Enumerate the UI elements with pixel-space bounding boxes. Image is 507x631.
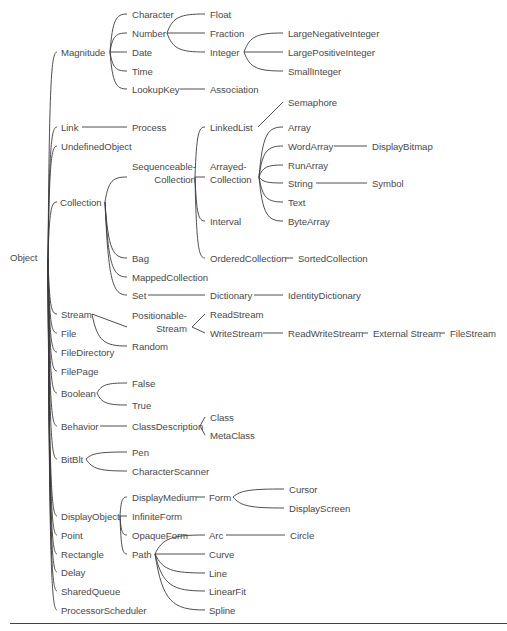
connector	[192, 314, 205, 327]
class-node-cursor: Cursor	[289, 484, 318, 495]
class-label: LinkedList	[210, 122, 253, 133]
class-node-opaque-form: OpaqueForm	[132, 530, 188, 541]
class-label: Association	[210, 84, 259, 95]
class-label: Collection	[60, 197, 102, 208]
class-label: Semaphore	[288, 97, 337, 108]
class-node-boolean: Boolean	[61, 388, 96, 399]
class-label: LargeNegativeInteger	[288, 28, 379, 39]
class-label: ReadStream	[210, 309, 263, 320]
class-label: Random	[132, 341, 168, 352]
class-label: SortedCollection	[298, 253, 368, 264]
class-label: Cursor	[289, 484, 318, 495]
class-node-behavior: Behavior	[61, 421, 98, 432]
connector	[259, 177, 283, 183]
class-node-bag: Bag	[132, 253, 149, 264]
class-label: DisplayBitmap	[372, 141, 433, 152]
class-node-external-stream: External Stream	[373, 328, 441, 339]
class-node-delay: Delay	[61, 567, 85, 578]
connector	[92, 314, 127, 346]
class-node-random: Random	[132, 341, 168, 352]
class-label: Curve	[209, 549, 234, 560]
class-label: DisplayMedium	[132, 492, 197, 503]
class-node-character-scanner: CharacterScanner	[132, 466, 209, 477]
class-node-word-array: WordArray	[288, 141, 333, 152]
class-label: Sequenceable-	[132, 161, 196, 172]
class-node-time: Time	[132, 66, 153, 77]
class-node-true: True	[132, 400, 151, 411]
class-label: FilePage	[61, 366, 98, 377]
class-node-write-stream: WriteStream	[210, 328, 263, 339]
class-label: Fraction	[210, 28, 244, 39]
class-node-display-object: DisplayObject	[61, 511, 120, 522]
class-label: Positionable-	[132, 310, 187, 321]
class-node-class-description: ClassDescription	[132, 421, 203, 432]
class-node-string: String	[288, 178, 313, 189]
class-node-run-array: RunArray	[288, 160, 328, 171]
class-label: DisplayScreen	[289, 503, 350, 514]
class-node-process: Process	[132, 122, 166, 133]
class-hierarchy-diagram: ObjectMagnitudeCharacterNumberDateTimeLo…	[0, 0, 507, 631]
class-label: FileDirectory	[61, 347, 114, 358]
class-label: RunArray	[288, 160, 328, 171]
class-node-bit-blt: BitBlt	[61, 454, 83, 465]
class-node-semaphore: Semaphore	[288, 97, 337, 108]
connector	[259, 127, 283, 177]
class-node-arc: Arc	[209, 530, 223, 541]
class-label: Array	[288, 122, 311, 133]
class-node-sequenceable-collection: Sequenceable-Collection	[132, 160, 196, 186]
class-label: Number	[132, 28, 166, 39]
class-label: Spline	[209, 605, 235, 616]
connector	[259, 165, 283, 177]
class-node-positionable-stream: Positionable-Stream	[132, 309, 187, 335]
class-label: Form	[209, 492, 231, 503]
bottom-rule	[10, 623, 507, 624]
class-label: FileStream	[450, 328, 496, 339]
class-label: Arc	[209, 530, 223, 541]
class-label: Set	[132, 290, 146, 301]
class-node-collection: Collection	[60, 197, 102, 208]
class-node-date: Date	[132, 47, 152, 58]
class-node-file: File	[61, 328, 76, 339]
class-label: UndefinedObject	[61, 141, 132, 152]
class-node-file-directory: FileDirectory	[61, 347, 114, 358]
class-node-large-negative-integer: LargeNegativeInteger	[288, 28, 379, 39]
class-label: WriteStream	[210, 328, 263, 339]
class-label: Dictionary	[210, 290, 252, 301]
class-node-ordered-collection: OrderedCollection	[210, 253, 286, 264]
class-node-pen: Pen	[132, 447, 149, 458]
connector	[167, 33, 205, 52]
connector	[155, 554, 205, 573]
class-label: InfiniteForm	[132, 511, 182, 522]
connector	[233, 497, 284, 508]
class-label: WordArray	[288, 141, 333, 152]
class-label: External Stream	[373, 328, 441, 339]
class-node-linear-fit: LinearFit	[209, 586, 246, 597]
class-node-association: Association	[210, 84, 259, 95]
connector	[155, 554, 205, 610]
class-label: Float	[210, 9, 231, 20]
class-node-class: Class	[210, 412, 234, 423]
class-label: Bag	[132, 253, 149, 264]
class-label: IdentityDictionary	[288, 290, 361, 301]
class-node-object: Object	[10, 252, 37, 263]
class-node-arrayed-collection: Arrayed-Collection	[210, 160, 252, 186]
connector	[92, 314, 127, 327]
class-label: LargePositiveInteger	[288, 47, 375, 58]
class-label-line2: Collection	[132, 173, 196, 186]
connector	[105, 202, 127, 295]
class-node-infinite-form: InfiniteForm	[132, 511, 182, 522]
class-label: CharacterScanner	[132, 466, 209, 477]
class-node-read-stream: ReadStream	[210, 309, 263, 320]
class-label: Character	[132, 9, 174, 20]
connector	[97, 393, 127, 405]
class-label: SharedQueue	[61, 586, 120, 597]
class-label: Path	[132, 549, 152, 560]
class-node-set: Set	[132, 290, 146, 301]
class-label: BitBlt	[61, 454, 83, 465]
class-node-rectangle: Rectangle	[61, 549, 104, 560]
class-label: True	[132, 400, 151, 411]
class-node-dictionary: Dictionary	[210, 290, 252, 301]
class-node-curve: Curve	[209, 549, 234, 560]
class-label: File	[61, 328, 76, 339]
class-label: Date	[132, 47, 152, 58]
